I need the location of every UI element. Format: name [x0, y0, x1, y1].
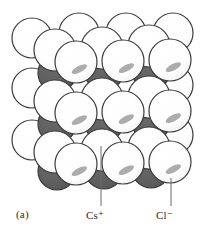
anion-sphere-front: [149, 39, 191, 81]
anion-sphere-front: [102, 91, 144, 133]
anion-label-text: Cl⁻: [156, 209, 173, 221]
anion-sphere-front: [102, 40, 144, 82]
anion-sphere-front: [55, 41, 97, 83]
anion-mid-layer: [34, 25, 170, 173]
panel-label: (a): [16, 208, 29, 220]
anion-sphere-front: [102, 142, 144, 184]
anion-sphere-front: [55, 143, 97, 185]
legend-label-cation: Cs⁺: [86, 209, 104, 222]
cation-label-text: Cs⁺: [86, 209, 104, 221]
crystal-lattice-diagram: [0, 0, 211, 241]
anion-sphere-front: [149, 90, 191, 132]
anion-front-layer: [55, 39, 191, 185]
legend-label-anion: Cl⁻: [156, 209, 173, 222]
anion-sphere-front: [149, 141, 191, 183]
cscl-crystal-figure: (a) Cs⁺ Cl⁻: [0, 0, 211, 241]
anion-sphere-front: [55, 92, 97, 134]
